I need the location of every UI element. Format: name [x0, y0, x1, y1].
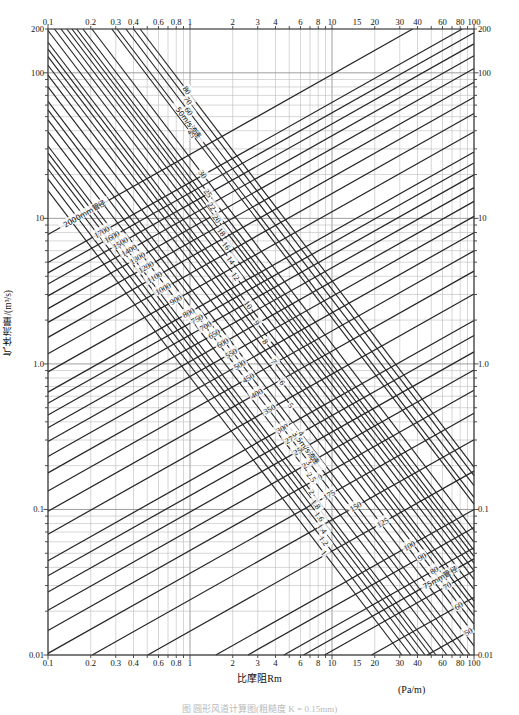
axis-tick-label: 4 — [273, 17, 277, 27]
axis-tick-label: 0.1 — [43, 658, 54, 668]
axis-tick-label: 2 — [231, 17, 235, 27]
axis-tick-label: 0.1 — [478, 504, 489, 514]
axis-tick-label: 0.6 — [153, 17, 164, 27]
axis-tick-label: 15 — [353, 658, 362, 668]
diameter-line-label: 150 — [346, 497, 365, 514]
axis-tick-label: 2 — [231, 658, 235, 668]
axis-tick-label: 8 — [316, 17, 320, 27]
axis-tick-label: 40 — [413, 658, 422, 668]
axis-tick-label: 10 — [328, 658, 337, 668]
axis-tick-label: 20 — [370, 658, 379, 668]
axis-tick-label: 0.6 — [153, 658, 164, 668]
axis-tick-label: 100 — [478, 68, 491, 78]
axis-tick-label: 10 — [478, 213, 487, 223]
axis-tick-label: 10 — [328, 17, 337, 27]
axis-tick-label: 20 — [370, 17, 379, 27]
axis-tick-label: 200 — [31, 24, 44, 34]
axis-tick-label: 0.8 — [171, 658, 182, 668]
y-axis-label: 气体流量/(m³/s) — [2, 290, 18, 356]
axis-tick-label: 3 — [256, 17, 260, 27]
axis-tick-label: 3 — [256, 658, 260, 668]
axis-tick-label: 80 — [456, 658, 465, 668]
axis-tick-label: 0.3 — [110, 658, 121, 668]
axis-tick-label: 1 — [188, 658, 192, 668]
axis-tick-label: 80 — [456, 17, 465, 27]
diameter-line-label: 400 — [247, 385, 266, 402]
axis-tick-label: 4 — [273, 658, 277, 668]
diameter-line-label: 90 — [414, 549, 429, 564]
figure-caption: 图 圆形风道计算图(粗糙度 K = 0.15mm) — [0, 702, 519, 715]
x-axis-unit: (Pa/m) — [398, 684, 425, 695]
axis-tick-label: 6 — [298, 17, 302, 27]
diameter-line-label: 350 — [260, 400, 279, 417]
axis-tick-label: 0.2 — [85, 658, 96, 668]
axis-tick-label: 0.3 — [110, 17, 121, 27]
axis-tick-label: 60 — [438, 658, 447, 668]
axis-tick-label: 0.2 — [85, 17, 96, 27]
axis-tick-label: 40 — [413, 17, 422, 27]
axis-tick-label: 30 — [395, 658, 404, 668]
diameter-line-label: 175 — [319, 486, 338, 503]
axis-tick-label: 8 — [316, 658, 320, 668]
axis-tick-label: 30 — [395, 17, 404, 27]
axis-tick-label: 0.01 — [478, 650, 493, 660]
axis-tick-label: 0.4 — [128, 658, 139, 668]
axis-tick-label: 15 — [353, 17, 362, 27]
axis-tick-label: 0.01 — [29, 650, 44, 660]
x-axis-label: 比摩阻Rm — [0, 670, 519, 685]
axis-tick-label: 60 — [438, 17, 447, 27]
axis-tick-label: 100 — [31, 68, 44, 78]
axis-tick-label: 0.1 — [33, 504, 44, 514]
axis-tick-label: 6 — [298, 658, 302, 668]
axis-tick-label: 0.8 — [171, 17, 182, 27]
axis-tick-label: 10 — [35, 213, 44, 223]
axis-tick-label: 1.0 — [478, 359, 489, 369]
axis-tick-label: 0.1 — [43, 17, 54, 27]
axis-tick-label: 1 — [188, 17, 192, 27]
axis-tick-label: 1.0 — [33, 359, 44, 369]
axis-tick-label: 0.4 — [128, 17, 139, 27]
axis-tick-label: 200 — [478, 24, 491, 34]
